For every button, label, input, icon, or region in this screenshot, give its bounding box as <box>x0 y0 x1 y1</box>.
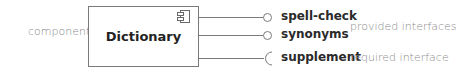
synonyms-provided-interface-icon <box>199 32 272 40</box>
supplement-required-interface-icon <box>199 52 272 65</box>
connectors-layer <box>0 0 465 79</box>
interface-label-synonyms: synonyms <box>281 27 349 41</box>
spell-check-provided-interface-icon <box>199 14 272 22</box>
interface-label-spell-check: spell-check <box>281 9 357 23</box>
provided-interfaces-annotation: provided interfaces <box>350 20 457 33</box>
required-interface-annotation: required interface <box>350 51 449 64</box>
component-icon <box>178 11 190 23</box>
